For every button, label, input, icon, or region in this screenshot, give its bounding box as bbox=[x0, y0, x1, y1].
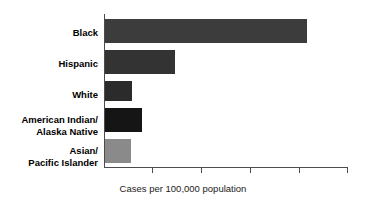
bar-rect bbox=[105, 108, 142, 132]
x-axis-line bbox=[104, 167, 348, 168]
bar-asian-pacific-islander bbox=[105, 139, 131, 163]
category-label-line: Asian/ bbox=[0, 145, 98, 157]
x-axis-tick bbox=[250, 168, 251, 173]
bar-rect bbox=[105, 139, 131, 163]
plot-area bbox=[104, 14, 348, 168]
bar-chart-figure: Black Hispanic White American Indian/ Al… bbox=[0, 0, 366, 205]
bar-black bbox=[105, 19, 307, 43]
x-axis-tick bbox=[299, 168, 300, 173]
category-label-line: Alaska Native bbox=[0, 126, 98, 138]
category-label-line: American Indian/ bbox=[0, 114, 98, 126]
category-label-column: Black Hispanic White American Indian/ Al… bbox=[0, 14, 98, 168]
bar-american-indian-alaska-native bbox=[105, 108, 142, 132]
category-label-line: White bbox=[0, 89, 98, 101]
category-label-asian-pacific-islander: Asian/ Pacific Islander bbox=[0, 145, 98, 168]
category-label-hispanic: Hispanic bbox=[0, 58, 98, 70]
bar-white bbox=[105, 81, 132, 101]
category-label-line: Pacific Islander bbox=[0, 157, 98, 169]
bar-rect bbox=[105, 19, 307, 43]
x-axis-tick bbox=[201, 168, 202, 173]
bar-hispanic bbox=[105, 50, 175, 74]
x-axis-tick bbox=[347, 168, 348, 173]
x-axis-tick bbox=[152, 168, 153, 173]
category-label-white: White bbox=[0, 89, 98, 101]
category-label-american-indian-alaska-native: American Indian/ Alaska Native bbox=[0, 114, 98, 137]
category-label-black: Black bbox=[0, 27, 98, 39]
bar-rect bbox=[105, 81, 132, 101]
category-label-line: Black bbox=[0, 27, 98, 39]
x-axis-caption: Cases per 100,000 population bbox=[0, 183, 366, 194]
category-label-line: Hispanic bbox=[0, 58, 98, 70]
bar-rect bbox=[105, 50, 175, 74]
